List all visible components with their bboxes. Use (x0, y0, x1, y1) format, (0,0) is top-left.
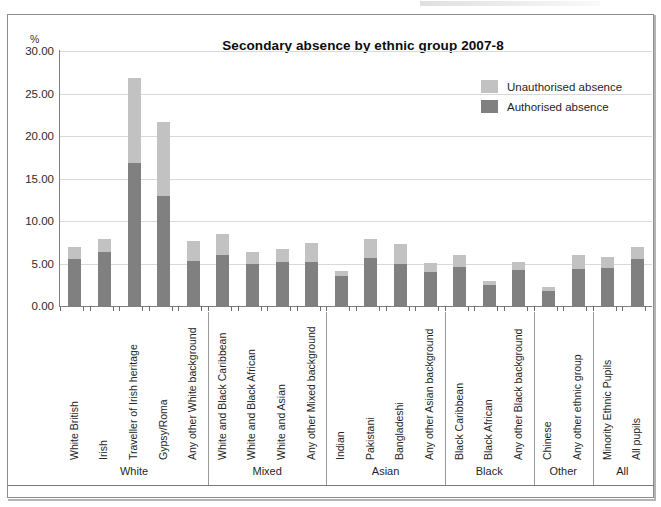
bar[interactable] (305, 243, 318, 306)
x-axis-tick (468, 306, 469, 311)
bar-segment-authorised (246, 264, 259, 306)
group-separator (593, 312, 594, 464)
y-axis-tick-label: 5.00 (8, 258, 54, 270)
y-axis-tick-labels: 30.0025.0020.0015.0010.005.000.00 (6, 51, 54, 306)
category-label: All pupils (630, 418, 642, 460)
group-label: Other (534, 465, 593, 477)
bar-segment-authorised (305, 262, 318, 306)
y-axis-tick-label: 0.00 (8, 300, 54, 312)
bar-segment-authorised (572, 269, 585, 306)
bar-segment-unauthorised (98, 239, 111, 252)
bar-segment-unauthorised (68, 247, 81, 260)
bar-segment-authorised (631, 259, 644, 306)
bar-segment-unauthorised (453, 255, 466, 267)
category-label: White and Asian (275, 384, 287, 460)
category-label: White and Black African (245, 349, 257, 460)
bar-segment-authorised (394, 264, 407, 306)
category-label: Chinese (541, 421, 553, 460)
bar-segment-authorised (453, 267, 466, 306)
group-separator (445, 312, 446, 464)
bar[interactable] (483, 281, 496, 307)
group-separator (534, 312, 535, 464)
bar-segment-unauthorised (394, 244, 407, 264)
group-band-baseline (8, 485, 654, 486)
bar[interactable] (246, 252, 259, 306)
bar[interactable] (128, 78, 141, 306)
y-axis-tick-label: 20.00 (8, 130, 54, 142)
group-label: Black (445, 465, 534, 477)
bar-segment-unauthorised (276, 249, 289, 262)
x-axis-tick (445, 306, 446, 311)
legend-swatch-authorised-icon (481, 100, 498, 113)
bar-segment-unauthorised (187, 241, 200, 261)
bar-segment-authorised (98, 252, 111, 306)
y-axis-tick-label: 25.00 (8, 88, 54, 100)
x-axis-tick (379, 306, 380, 311)
x-axis-tick (504, 306, 505, 311)
bar-segment-authorised (216, 255, 229, 306)
bar[interactable] (542, 287, 555, 306)
x-axis-tick (201, 306, 202, 311)
x-axis-tick (119, 306, 120, 311)
bar[interactable] (601, 257, 614, 306)
y-axis-tick-label: 30.00 (8, 45, 54, 57)
bar-segment-unauthorised (542, 287, 555, 290)
x-axis-tick (622, 306, 623, 311)
bar-segment-unauthorised (364, 239, 377, 258)
category-label: Pakistani (364, 417, 376, 460)
x-axis-tick (557, 306, 558, 311)
x-axis-tick (527, 306, 528, 311)
bar[interactable] (157, 122, 170, 306)
bar-segment-authorised (483, 285, 496, 306)
group-label: All (593, 465, 652, 477)
x-axis-tick (142, 306, 143, 311)
x-axis-tick (616, 306, 617, 311)
category-label: Traveller of Irish heritage (127, 344, 139, 460)
bar[interactable] (512, 262, 525, 306)
x-axis-tick (326, 306, 327, 311)
x-axis-tick (149, 306, 150, 311)
bar[interactable] (68, 247, 81, 307)
x-axis-tick-marks (60, 306, 652, 311)
category-label: Minority Ethnic Pupils (601, 360, 613, 460)
x-axis-tick (208, 306, 209, 311)
group-label: White (60, 465, 208, 477)
y-axis-tick-label: 15.00 (8, 173, 54, 185)
ethnic-group-band: WhiteMixedAsianBlackOtherAll (60, 463, 652, 485)
bar[interactable] (335, 271, 348, 306)
bar-segment-authorised (542, 291, 555, 306)
bar[interactable] (187, 241, 200, 306)
bar[interactable] (453, 255, 466, 306)
group-separator (208, 312, 209, 464)
category-label: Any other Asian background (423, 329, 435, 460)
bar[interactable] (394, 244, 407, 306)
group-label: Asian (326, 465, 444, 477)
legend-label-authorised: Authorised absence (507, 101, 609, 113)
x-axis-tick (297, 306, 298, 311)
category-label: White British (68, 401, 80, 460)
bar-segment-unauthorised (157, 122, 170, 197)
bar[interactable] (98, 239, 111, 306)
x-axis-tick (386, 306, 387, 311)
bar[interactable] (424, 263, 437, 306)
bar[interactable] (572, 255, 585, 306)
x-axis-tick (290, 306, 291, 311)
bar[interactable] (364, 239, 377, 306)
bar[interactable] (631, 247, 644, 306)
legend-label-unauthorised: Unauthorised absence (507, 81, 622, 93)
bar-segment-unauthorised (335, 271, 348, 276)
bar-segment-authorised (128, 163, 141, 306)
legend-item-authorised: Authorised absence (481, 100, 656, 113)
category-label: Any other ethnic group (571, 354, 583, 460)
x-axis-tick (178, 306, 179, 311)
x-axis-tick (113, 306, 114, 311)
bar-segment-authorised (512, 270, 525, 306)
x-axis-tick (349, 306, 350, 311)
bar[interactable] (216, 234, 229, 306)
bar-segment-authorised (68, 259, 81, 306)
bar-segment-authorised (424, 272, 437, 306)
bar[interactable] (276, 249, 289, 306)
category-label: Gypsy/Roma (157, 399, 169, 460)
scan-artifact (420, 1, 600, 6)
x-axis-tick (267, 306, 268, 311)
